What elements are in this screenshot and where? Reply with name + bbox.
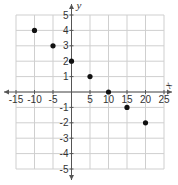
x-tick-label: 10 bbox=[103, 94, 115, 105]
x-tick-labels: -15-10-5510152025 bbox=[9, 94, 170, 105]
y-tick-label: 3 bbox=[63, 40, 69, 51]
y-tick-label: 4 bbox=[63, 25, 69, 36]
data-point bbox=[50, 43, 55, 48]
y-tick-label: 2 bbox=[63, 56, 69, 67]
data-point bbox=[32, 28, 37, 33]
x-axis-label: x bbox=[161, 80, 174, 91]
y-tick-label: -4 bbox=[60, 148, 69, 159]
y-axis-up-arrow-icon bbox=[69, 4, 74, 9]
x-tick-label: 5 bbox=[87, 94, 93, 105]
y-tick-label: 5 bbox=[63, 10, 69, 21]
data-point bbox=[87, 74, 92, 79]
data-point bbox=[124, 105, 129, 110]
y-axis-label: y bbox=[76, 0, 82, 11]
y-axis-down-arrow-icon bbox=[69, 175, 74, 180]
x-tick-label: -10 bbox=[27, 94, 42, 105]
y-tick-label: 1 bbox=[63, 71, 69, 82]
scatter-chart: -15-10-5510152025 54321-1-2-3-4-5 x y bbox=[0, 0, 178, 185]
data-point bbox=[69, 59, 74, 64]
x-tick-label: -5 bbox=[49, 94, 58, 105]
data-point bbox=[143, 120, 148, 125]
y-tick-label: -2 bbox=[60, 117, 69, 128]
x-tick-label: 25 bbox=[158, 94, 170, 105]
y-tick-label: -5 bbox=[60, 164, 69, 175]
x-tick-label: 15 bbox=[121, 94, 133, 105]
x-tick-label: -15 bbox=[9, 94, 24, 105]
y-tick-label: -1 bbox=[60, 102, 69, 113]
x-tick-label: 20 bbox=[140, 94, 152, 105]
y-tick-label: -3 bbox=[60, 133, 69, 144]
data-point bbox=[106, 89, 111, 94]
